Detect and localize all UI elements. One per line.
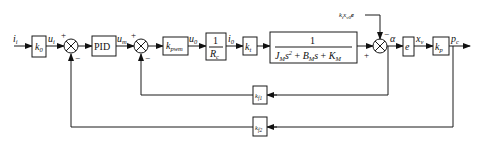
um-signal-label: um (117, 33, 127, 45)
kpwm-block: kpwm (163, 37, 188, 55)
feedback-path-kf1-out (141, 54, 253, 95)
svg-text:−: − (384, 29, 389, 39)
svg-text:−: − (75, 53, 80, 63)
kt-block: kt (243, 37, 257, 55)
kf2-block: kf2 (253, 117, 267, 136)
svg-text:+: + (61, 30, 66, 40)
svg-text:JMs2 + BMs + KM: JMs2 + BMs + KM (275, 49, 341, 62)
pc-signal-label: pc (450, 33, 459, 45)
svg-text:−: − (145, 53, 150, 63)
kf1-block: kf1 (253, 86, 267, 104)
input-signal-label: ii (13, 33, 18, 45)
svg-text:1: 1 (310, 35, 315, 46)
plant-transfer-function-block: 1 JMs2 + BMs + KM (270, 32, 357, 63)
feedback-path-kf2-out (71, 54, 253, 127)
kp-block: kp (433, 37, 449, 55)
u0-signal-label: u0 (189, 33, 198, 45)
summing-junction-3: + − (364, 29, 389, 60)
disturbance-label: ktxv0e (339, 11, 354, 20)
svg-text:PID: PID (94, 41, 110, 52)
k0-block: k0 (32, 36, 46, 57)
block-diagram: ii k0 ui + − PID um + − kpwm u0 (0, 0, 481, 147)
e-block: e (403, 37, 414, 56)
pid-block: PID (92, 36, 116, 56)
svg-text:+: + (364, 50, 369, 60)
i0-signal-label: i0 (228, 33, 235, 45)
inverse-rc-block: 1 Rc (206, 33, 226, 60)
ui-signal-label: ui (48, 33, 55, 45)
svg-text:1: 1 (213, 35, 218, 46)
xv-signal-label: xv (415, 33, 423, 45)
svg-text:e: e (405, 41, 410, 52)
svg-text:+: + (131, 30, 136, 40)
alpha-signal-label: α (390, 33, 396, 44)
